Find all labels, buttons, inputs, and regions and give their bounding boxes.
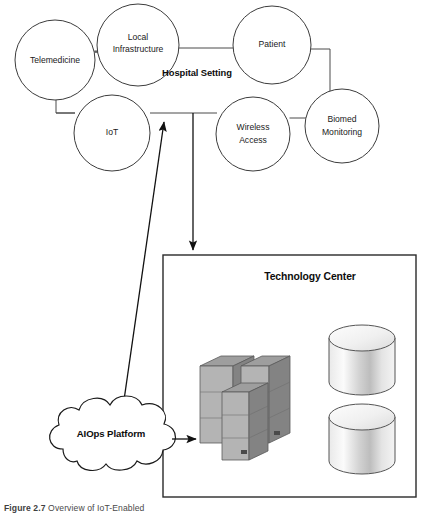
node-label-wireless-access-line1: Wireless [237, 122, 270, 132]
database-cylinder-lower[interactable] [329, 404, 395, 474]
node-label-patient: Patient [259, 39, 286, 49]
technology-center-label: Technology Center [264, 271, 356, 282]
figure-caption-label: Figure 2.7 [4, 503, 46, 513]
database-cylinder-upper[interactable] [329, 325, 395, 395]
node-label-local-infrastructure-line2: Infrastructure [113, 44, 164, 54]
figure-caption: Figure 2.7 Overview of IoT-Enabled [4, 503, 145, 513]
database-cylinders-group [329, 325, 395, 474]
diagram-canvas: Telemedicine Local Infrastructure Patien… [0, 0, 423, 515]
aiops-platform-node[interactable]: AIOps Platform [50, 396, 176, 470]
hospital-setting-label: Hospital Setting [162, 67, 232, 78]
node-label-biomed-monitoring-line1: Biomed [327, 114, 356, 124]
edge-telemedicine-to-bus [56, 100, 75, 113]
node-label-local-infrastructure-line1: Local [128, 32, 149, 42]
diagram-svg: Telemedicine Local Infrastructure Patien… [0, 0, 423, 515]
server-rack-front[interactable] [222, 383, 268, 460]
edge-patient-to-biomed-monitoring [311, 49, 331, 94]
node-label-iot: IoT [106, 127, 119, 137]
node-wireless-access[interactable] [216, 97, 290, 171]
node-label-telemedicine: Telemedicine [30, 55, 80, 65]
figure-caption-body: Overview of IoT-Enabled [48, 503, 144, 513]
server-racks-group [200, 356, 290, 460]
node-label-wireless-access-line2: Access [239, 135, 267, 145]
aiops-platform-label: AIOps Platform [77, 428, 145, 439]
hospital-nodes [15, 4, 379, 171]
node-label-biomed-monitoring-line2: Monitoring [322, 127, 362, 137]
node-biomed-monitoring[interactable] [305, 89, 379, 163]
